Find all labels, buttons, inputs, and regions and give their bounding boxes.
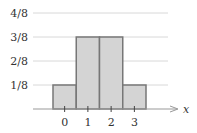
probability-histogram: 1/82/83/84/8 0123 x [0, 0, 197, 133]
y-axis-tick-labels: 1/82/83/84/8 [10, 7, 28, 92]
x-axis-label: x [183, 103, 190, 116]
x-tick-label: 2 [108, 116, 115, 129]
bar-3 [123, 85, 146, 109]
x-tick-label: 3 [131, 116, 138, 129]
y-tick-label: 4/8 [10, 7, 28, 20]
x-tick-label: 0 [61, 116, 68, 129]
bar-2 [100, 37, 123, 109]
y-tick-label: 2/8 [10, 55, 28, 68]
y-tick-label: 1/8 [10, 79, 28, 92]
bar-1 [76, 37, 99, 109]
y-tick-label: 3/8 [10, 31, 28, 44]
x-axis-tick-labels: 0123 [61, 116, 138, 129]
bar-0 [53, 85, 76, 109]
x-tick-label: 1 [84, 116, 91, 129]
bars [53, 37, 146, 109]
